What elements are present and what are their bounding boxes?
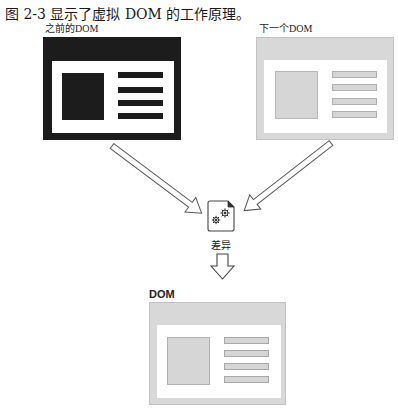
diff-label: 差异	[211, 237, 231, 252]
result-dom-label: DOM	[149, 288, 175, 300]
result-dom-text-line	[224, 337, 269, 344]
arrow-down-right-icon	[107, 139, 207, 221]
arrow-down-left-icon	[239, 136, 337, 218]
result-dom-text-line	[224, 350, 269, 357]
gears-document-icon	[208, 201, 234, 231]
result-dom-text-line	[224, 376, 269, 383]
result-dom-image-block	[167, 337, 210, 385]
result-dom-text-line	[224, 363, 269, 370]
arrow-down-icon	[211, 254, 234, 279]
